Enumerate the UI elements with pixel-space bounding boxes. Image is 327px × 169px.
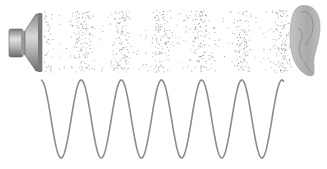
air-particle — [79, 56, 80, 57]
air-particle — [287, 70, 288, 71]
air-particle — [283, 66, 284, 67]
air-particle — [206, 63, 207, 64]
air-particle — [83, 47, 84, 48]
air-particle — [219, 40, 220, 41]
air-particle — [235, 52, 236, 53]
air-particle — [157, 26, 158, 27]
air-particle — [199, 16, 200, 17]
air-particle — [118, 72, 119, 73]
air-particle — [166, 30, 167, 31]
air-particle — [158, 20, 159, 21]
air-particle — [168, 41, 169, 42]
air-particle — [208, 45, 209, 46]
air-particle — [163, 14, 164, 15]
air-particle — [121, 53, 122, 54]
air-particle — [168, 38, 169, 39]
air-particle — [281, 44, 282, 45]
air-particle — [103, 25, 104, 26]
air-particle — [81, 24, 82, 25]
air-particle — [190, 60, 191, 61]
air-particle — [114, 44, 115, 45]
air-particle — [82, 17, 83, 18]
air-particle — [119, 43, 120, 44]
air-particle — [159, 12, 160, 13]
air-particle — [235, 34, 236, 35]
air-particle — [238, 13, 239, 14]
air-particle — [283, 46, 284, 47]
air-particle — [74, 46, 75, 47]
air-particle — [77, 42, 78, 43]
air-particle — [244, 21, 245, 22]
air-particle — [202, 22, 203, 23]
air-particle — [45, 55, 46, 56]
air-particle — [82, 12, 83, 13]
air-particle — [232, 61, 233, 62]
air-particle — [122, 68, 123, 69]
air-particle — [201, 65, 202, 66]
air-particle — [286, 16, 287, 17]
air-particle — [45, 12, 46, 13]
air-particle — [165, 42, 166, 43]
air-particle — [160, 38, 161, 39]
air-particle — [206, 25, 207, 26]
air-particle — [125, 19, 126, 20]
air-particle — [284, 25, 285, 26]
air-particle — [275, 22, 276, 23]
air-particle — [179, 37, 180, 38]
air-particle — [73, 55, 74, 56]
air-particle — [168, 59, 169, 60]
air-particle — [247, 55, 248, 56]
air-particle — [276, 40, 277, 41]
air-particle — [170, 18, 171, 19]
air-particle — [208, 20, 209, 21]
air-particle — [124, 57, 125, 58]
air-particle — [194, 42, 195, 43]
air-particle — [205, 61, 206, 62]
air-particle — [289, 48, 290, 49]
air-particle — [83, 54, 84, 55]
air-particle — [116, 22, 117, 23]
air-particle — [284, 28, 285, 29]
air-particle — [129, 11, 130, 12]
air-particle — [81, 39, 82, 40]
air-particle — [86, 30, 87, 31]
air-particle — [90, 48, 91, 49]
air-particle — [178, 14, 179, 15]
air-particle — [76, 41, 77, 42]
air-particle — [283, 25, 284, 26]
air-particle — [158, 30, 159, 31]
air-particle — [203, 41, 204, 42]
air-particle — [286, 60, 287, 61]
air-particle — [118, 31, 119, 32]
air-particle — [81, 30, 82, 31]
air-particle — [167, 37, 168, 38]
air-particle — [272, 10, 273, 11]
air-particle — [278, 48, 279, 49]
air-particle — [137, 51, 138, 52]
air-particle — [227, 28, 228, 29]
air-particle — [88, 12, 89, 13]
air-particle — [243, 54, 244, 55]
air-particle — [203, 35, 204, 36]
air-particle — [287, 62, 288, 63]
air-particle — [85, 17, 86, 18]
air-particle — [85, 63, 86, 64]
air-particle — [166, 14, 167, 15]
air-particle — [119, 18, 120, 19]
air-particle — [284, 58, 285, 59]
air-particle — [177, 25, 178, 26]
air-particle — [125, 60, 126, 61]
air-particle — [114, 65, 115, 66]
air-particle — [165, 44, 166, 45]
air-particle — [196, 16, 197, 17]
air-particle — [195, 19, 196, 20]
air-particle — [246, 20, 247, 21]
air-particle — [210, 68, 211, 69]
air-particle — [205, 15, 206, 16]
air-particle — [285, 67, 286, 68]
air-particle — [280, 25, 281, 26]
air-particle — [44, 36, 45, 37]
air-particle — [86, 54, 87, 55]
air-particle — [167, 47, 168, 48]
air-particle — [249, 40, 250, 41]
